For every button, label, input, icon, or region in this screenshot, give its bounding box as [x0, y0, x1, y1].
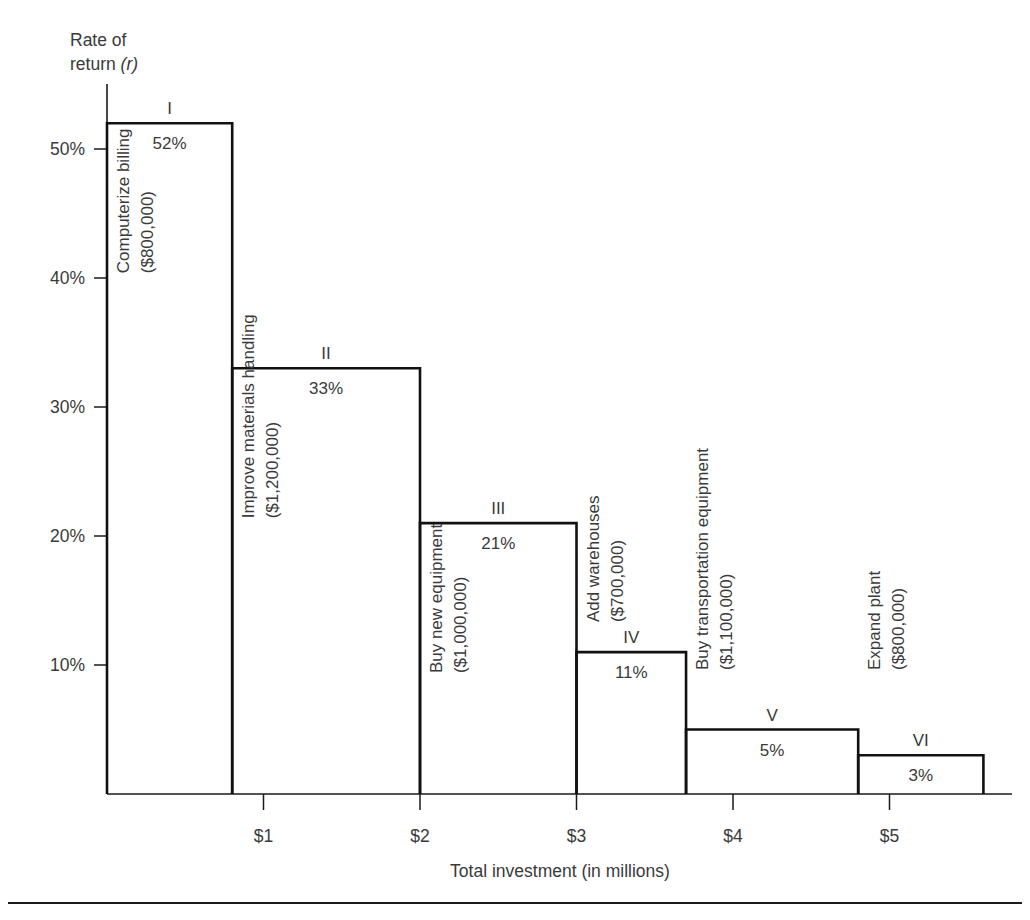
y-tick-label: 50% [50, 139, 85, 159]
bar-project-name: Expand plant [865, 570, 884, 670]
bar-outline[interactable] [686, 730, 858, 795]
bar-project-cost: ($800,000) [889, 588, 908, 670]
bar-roman-label: IV [623, 628, 640, 647]
bar-value-label: 3% [909, 766, 934, 785]
bar-roman-label: VI [913, 731, 929, 750]
bar-project-name: Computerize billing [114, 129, 133, 274]
y-tick-label: 10% [50, 655, 85, 675]
investment-opportunity-chart: Rate of return (r) 10%20%30%40%50% $1$2$… [0, 0, 1030, 920]
y-axis-tick-labels: 10%20%30%40%50% [50, 139, 85, 675]
bar-value-label: 11% [615, 663, 648, 682]
bar-project-cost: ($800,000) [138, 191, 157, 273]
y-axis-label-return: return [70, 54, 121, 74]
x-axis-ticks [264, 794, 890, 810]
x-axis-title: Total investment (in millions) [450, 861, 670, 881]
x-axis-tick-labels: $1$2$3$4$5 [254, 826, 899, 846]
bar-roman-label: V [766, 706, 778, 725]
bar-project-cost: ($1,100,000) [717, 574, 736, 670]
bar-project-name: Improve materials handling [239, 314, 258, 518]
x-tick-label: $1 [254, 826, 273, 846]
bar-value-label: 33% [309, 379, 343, 398]
y-axis-label-line1: Rate of [70, 30, 127, 50]
x-tick-label: $2 [410, 826, 429, 846]
y-axis-label-line2: return (r) [70, 54, 138, 74]
y-tick-label: 20% [50, 526, 85, 546]
bar-outline[interactable] [232, 368, 420, 794]
figure-canvas: Rate of return (r) 10%20%30%40%50% $1$2$… [0, 0, 1030, 920]
y-tick-label: 40% [50, 268, 85, 288]
bar-project-cost: ($1,200,000) [263, 422, 282, 518]
bar-project-name: Buy transportation equipment [693, 448, 712, 670]
bar-value-label: 5% [760, 741, 785, 760]
bar-project-name: Add warehouses [584, 495, 603, 622]
bar-roman-label: II [321, 344, 330, 363]
bar-project-name: Buy new equipment [427, 524, 446, 674]
x-tick-label: $5 [880, 826, 899, 846]
x-tick-label: $4 [723, 826, 743, 846]
bar-roman-label: III [491, 499, 505, 518]
y-axis-label-r: (r) [121, 54, 138, 74]
bar-project-cost: ($700,000) [608, 540, 627, 622]
x-tick-label: $3 [567, 826, 586, 846]
bar-project-cost: ($1,000,000) [451, 577, 470, 673]
bar-value-label: 52% [153, 134, 187, 153]
y-tick-label: 30% [50, 397, 85, 417]
bar-roman-label: I [167, 99, 172, 118]
bar-value-label: 21% [481, 534, 515, 553]
y-axis-ticks [94, 149, 107, 665]
bar-annotations: I52%Computerize billing($800,000)II33%Im… [114, 99, 933, 785]
